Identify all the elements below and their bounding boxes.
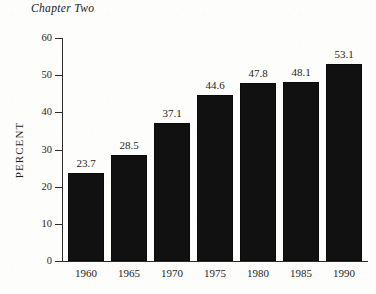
bar-value-label-1960: 23.7 bbox=[60, 158, 112, 169]
bar-value-label-1975: 44.6 bbox=[189, 80, 241, 91]
y-axis-tick-60 bbox=[55, 38, 62, 39]
y-axis-tick-label: 0 bbox=[18, 256, 52, 267]
y-axis-line bbox=[62, 38, 63, 262]
y-axis-tick-label: 50 bbox=[18, 70, 52, 81]
bar-value-label-1985: 48.1 bbox=[275, 67, 327, 78]
bar-1985 bbox=[283, 82, 319, 261]
y-axis-tick-label: 60 bbox=[18, 33, 52, 44]
bar-value-label-1965: 28.5 bbox=[103, 140, 155, 151]
bar-1960 bbox=[68, 173, 104, 261]
bar-value-label-1970: 37.1 bbox=[146, 108, 198, 119]
y-axis-tick-10 bbox=[55, 224, 62, 225]
y-axis-tick-30 bbox=[55, 150, 62, 151]
y-axis-tick-label: 20 bbox=[18, 182, 52, 193]
y-axis-tick-label: 30 bbox=[18, 145, 52, 156]
bar-1970 bbox=[154, 123, 190, 261]
bar-value-label-1990: 53.1 bbox=[318, 49, 370, 60]
y-axis-tick-20 bbox=[55, 187, 62, 188]
x-axis-line bbox=[62, 261, 368, 262]
bar-chart: PERCENT 0102030405060 23.728.537.144.647… bbox=[0, 0, 376, 294]
y-axis-tick-label: 40 bbox=[18, 107, 52, 118]
bar-1975 bbox=[197, 95, 233, 261]
y-axis-tick-label: 10 bbox=[18, 219, 52, 230]
scanned-page: Chapter Two PERCENT 0102030405060 23.728… bbox=[0, 0, 376, 294]
bar-1980 bbox=[240, 83, 276, 261]
y-axis-tick-50 bbox=[55, 75, 62, 76]
bar-1965 bbox=[111, 155, 147, 261]
y-axis-tick-0 bbox=[55, 261, 62, 262]
x-axis-tick-label-1990: 1990 bbox=[318, 268, 370, 279]
y-axis-tick-40 bbox=[55, 112, 62, 113]
bar-1990 bbox=[326, 64, 362, 261]
